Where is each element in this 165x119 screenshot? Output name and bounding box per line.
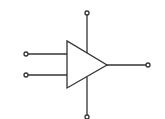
op-amp-diagram [0,0,165,119]
output-terminal [146,63,150,67]
supply-bottom-terminal [85,115,89,119]
supply-top-terminal [85,11,89,15]
input-2-terminal [24,73,28,77]
input-1-terminal [24,52,28,56]
